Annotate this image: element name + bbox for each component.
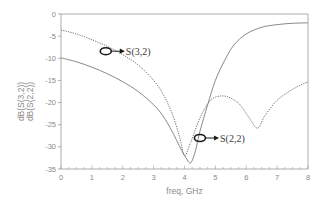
y-axis-label: dB(S(3,2))dB(S(2,2))	[16, 82, 35, 121]
x-tick-label: 2	[121, 173, 125, 182]
y-axis-label-line: dB(S(2,2))	[25, 82, 35, 121]
annotation-label: S(2,2)	[220, 133, 245, 145]
y-tick-label: -15	[45, 76, 56, 85]
x-tick-label: 8	[306, 173, 310, 182]
x-axis-ticks: 012345678	[59, 166, 310, 183]
arrow-head-icon	[120, 49, 125, 54]
x-tick-label: 1	[90, 173, 94, 182]
y-tick-label: -35	[45, 165, 56, 174]
x-tick-label: 7	[275, 173, 279, 182]
marker-ellipse-icon	[194, 135, 205, 142]
series-group	[61, 23, 308, 163]
marker-ellipse-icon	[100, 48, 111, 55]
series-s22-line	[61, 23, 308, 163]
y-tick-label: -10	[45, 54, 56, 63]
annotations: S(3,2)S(2,2)	[100, 46, 244, 145]
arrow-head-icon	[214, 135, 219, 140]
y-tick-label: -30	[45, 142, 56, 151]
x-axis-label: freq, GHz	[166, 186, 202, 196]
annotation-label: S(3,2)	[126, 46, 151, 58]
y-tick-label: -20	[45, 98, 56, 107]
x-tick-label: 3	[152, 173, 156, 182]
y-tick-label: -5	[49, 32, 56, 41]
x-tick-label: 4	[182, 173, 186, 182]
s-parameter-chart: 0-5-10-15-20-25-30-35 012345678 S(3,2)S(…	[0, 0, 324, 212]
y-tick-label: -25	[45, 120, 56, 129]
plot-frame	[61, 14, 308, 169]
x-tick-label: 6	[244, 173, 248, 182]
series-s32-line	[61, 30, 308, 156]
x-tick-label: 0	[59, 173, 63, 182]
y-axis-ticks: 0-5-10-15-20-25-30-35	[45, 10, 61, 174]
y-tick-label: 0	[52, 10, 56, 19]
x-tick-label: 5	[213, 173, 217, 182]
